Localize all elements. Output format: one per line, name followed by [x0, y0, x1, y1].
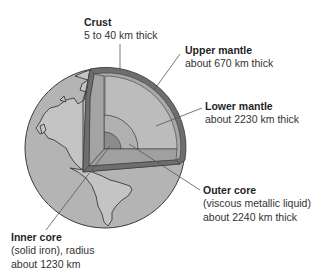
- label-upper-mantle-desc: about 670 km thick: [185, 57, 273, 70]
- label-crust-desc: 5 to 40 km thick: [84, 29, 158, 42]
- label-outer-core-title: Outer core: [203, 184, 311, 197]
- cutaway-wedge: [83, 67, 186, 172]
- leader-line-upper-mantle: [154, 54, 180, 90]
- label-outer-core-desc-2: about 2240 km thick: [203, 211, 311, 224]
- label-outer-core: Outer core (viscous metallic liquid) abo…: [203, 184, 311, 224]
- label-inner-core-desc-1: (solid iron), radius: [11, 244, 94, 257]
- label-lower-mantle-desc: about 2230 km thick: [205, 113, 299, 126]
- label-inner-core-title: Inner core: [11, 231, 94, 244]
- label-upper-mantle-title: Upper mantle: [185, 44, 273, 57]
- label-lower-mantle-title: Lower mantle: [205, 100, 299, 113]
- label-crust-title: Crust: [84, 16, 158, 29]
- label-upper-mantle: Upper mantle about 670 km thick: [185, 44, 273, 71]
- label-lower-mantle: Lower mantle about 2230 km thick: [205, 100, 299, 127]
- label-inner-core-desc-2: about 1230 km: [11, 258, 94, 271]
- label-outer-core-desc-1: (viscous metallic liquid): [203, 197, 311, 210]
- label-crust: Crust 5 to 40 km thick: [84, 16, 158, 43]
- label-inner-core: Inner core (solid iron), radius about 12…: [11, 231, 94, 271]
